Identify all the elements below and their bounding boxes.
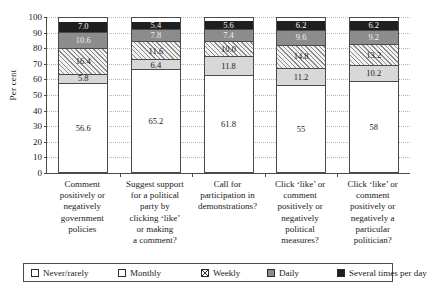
bar-segment-month[interactable]: 5.8 <box>59 75 107 84</box>
bar-segment-daily[interactable]: 9.2 <box>350 31 398 45</box>
bar-stack[interactable]: 5511.214.89.66.2 <box>276 17 326 173</box>
x-axis-tick-mark <box>265 173 266 177</box>
x-axis-category-label: Click ‘like’ orcommentpositively ornegat… <box>262 179 338 246</box>
bar-segment-value-label: 5.4 <box>151 22 162 30</box>
bar-segment-daily[interactable]: 7.4 <box>205 30 253 42</box>
bar-segment-value-label: 9.2 <box>368 33 379 42</box>
y-axis-tick-label: 30 <box>33 121 42 131</box>
bar-segment-several[interactable]: 5.6 <box>205 21 253 30</box>
bar-segment-value-label: 6.2 <box>296 21 307 30</box>
y-axis-tick-mark <box>44 95 47 96</box>
y-axis-tick-mark <box>44 17 47 18</box>
chart-legend: Never/rarelyMonthlyWeeklyDailySeveral ti… <box>23 263 393 282</box>
legend-item-week[interactable]: Weekly <box>201 268 240 278</box>
y-axis-title: Per cent <box>8 55 18 115</box>
y-axis-tick-label: 80 <box>33 43 42 53</box>
bar-segment-value-label: 13.2 <box>365 51 382 60</box>
plot-area: 010203040506070809010056.65.816.410.67.0… <box>46 17 410 174</box>
bar-segment-value-label: 7.4 <box>223 31 234 40</box>
bar-segment-several[interactable]: 6.2 <box>350 21 398 31</box>
bar-segment-value-label: 5.8 <box>78 75 89 83</box>
bar-segment-week[interactable]: 16.4 <box>59 49 107 75</box>
bar-segment-value-label: 10.2 <box>366 69 381 78</box>
bar-segment-month[interactable]: 6.4 <box>132 60 180 70</box>
bar-stack[interactable]: 65.26.411.67.85.4 <box>131 17 181 173</box>
bar-segment-value-label: 6.2 <box>368 21 379 30</box>
legend-swatch-icon-month <box>118 269 126 277</box>
bar-segment-week[interactable]: 11.6 <box>132 42 180 60</box>
bar-segment-never[interactable]: 65.2 <box>132 70 180 172</box>
bar-segment-several[interactable]: 6.2 <box>277 21 325 31</box>
bar-segment-value-label: 10.0 <box>220 45 237 54</box>
bar-stack[interactable]: 5810.213.29.26.2 <box>349 17 399 173</box>
bar-segment-value-label: 10.6 <box>76 36 91 45</box>
legend-label: Several times per day <box>349 268 427 278</box>
y-axis-tick-mark <box>44 173 47 174</box>
y-axis-tick-mark <box>44 157 47 158</box>
bar-segment-several[interactable]: 5.4 <box>132 22 180 30</box>
y-axis-tick-mark <box>44 48 47 49</box>
legend-label: Daily <box>279 268 299 278</box>
bar-segment-value-label: 5.6 <box>223 21 234 29</box>
bar-segment-daily[interactable]: 7.8 <box>132 30 180 42</box>
bar-segment-value-label: 61.8 <box>221 120 236 129</box>
legend-swatch-icon-never <box>31 269 39 277</box>
bar-segment-several[interactable]: 7.0 <box>59 22 107 33</box>
y-axis-tick-mark <box>44 79 47 80</box>
legend-label: Monthly <box>130 268 161 278</box>
bar-segment-value-label: 58 <box>369 123 378 132</box>
bar-segment-never[interactable]: 58 <box>350 82 398 172</box>
bar-segment-value-label: 11.6 <box>148 47 165 56</box>
bar-segment-value-label: 55 <box>297 125 306 134</box>
y-axis-tick-label: 20 <box>33 137 42 147</box>
legend-item-several[interactable]: Several times per day <box>337 268 427 278</box>
legend-item-daily[interactable]: Daily <box>267 268 299 278</box>
legend-swatch-icon-week <box>201 269 209 277</box>
bar-segment-month[interactable]: 10.2 <box>350 66 398 82</box>
bar-segment-value-label: 14.8 <box>293 52 310 61</box>
legend-item-month[interactable]: Monthly <box>118 268 161 278</box>
legend-label: Weekly <box>213 268 240 278</box>
y-axis-tick-label: 60 <box>33 74 42 84</box>
bar-segment-daily[interactable]: 9.6 <box>277 31 325 46</box>
y-axis-tick-label: 10 <box>33 152 42 162</box>
bar-segment-never[interactable]: 55 <box>277 86 325 172</box>
y-axis-tick-label: 40 <box>33 106 42 116</box>
x-axis-category-label: Commentpositively ornegativelygovernment… <box>44 179 120 235</box>
y-axis-tick-mark <box>44 111 47 112</box>
bar-segment-week[interactable]: 13.2 <box>350 45 398 66</box>
x-axis-category-label: Click ‘like’ orcommentpositively ornegat… <box>335 179 411 246</box>
bar-segment-value-label: 11.2 <box>294 73 309 82</box>
bar-segment-never[interactable]: 56.6 <box>59 84 107 172</box>
y-axis-tick-label: 50 <box>33 90 42 100</box>
bar-segment-value-label: 11.8 <box>221 62 236 71</box>
x-axis-category-label: Suggest supportfor a politicalparty bycl… <box>117 179 193 246</box>
bar-segment-month[interactable]: 11.8 <box>205 57 253 75</box>
y-axis-tick-mark <box>44 142 47 143</box>
bar-stack[interactable]: 61.811.810.07.45.6 <box>204 17 254 173</box>
legend-item-never[interactable]: Never/rarely <box>31 268 88 278</box>
bar-segment-never[interactable]: 61.8 <box>205 76 253 172</box>
bar-segment-value-label: 16.4 <box>75 57 92 66</box>
legend-label: Never/rarely <box>43 268 88 278</box>
bar-segment-value-label: 7.8 <box>151 31 162 40</box>
x-axis-category-label: Call forparticipation indemonstrations? <box>190 179 266 213</box>
y-axis-tick-mark <box>44 126 47 127</box>
x-axis-tick-mark <box>120 173 121 177</box>
x-axis-tick-mark <box>337 173 338 177</box>
x-axis-tick-mark <box>192 173 193 177</box>
y-axis-tick-mark <box>44 33 47 34</box>
bar-segment-daily[interactable]: 10.6 <box>59 33 107 50</box>
y-axis-tick-label: 0 <box>38 168 43 178</box>
y-axis-tick-label: 70 <box>33 59 42 69</box>
bar-segment-week[interactable]: 14.8 <box>277 46 325 69</box>
bar-segment-value-label: 65.2 <box>148 117 163 126</box>
bar-segment-value-label: 7.0 <box>78 22 89 31</box>
bar-segment-month[interactable]: 11.2 <box>277 69 325 86</box>
y-axis-tick-mark <box>44 64 47 65</box>
bar-segment-week[interactable]: 10.0 <box>205 42 253 58</box>
legend-swatch-icon-several <box>337 269 345 277</box>
legend-swatch-icon-daily <box>267 269 275 277</box>
bar-stack[interactable]: 56.65.816.410.67.0 <box>58 17 108 173</box>
